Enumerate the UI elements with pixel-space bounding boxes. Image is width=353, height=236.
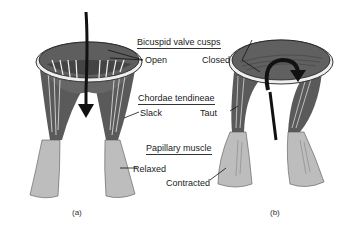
valve-illustration bbox=[0, 0, 353, 236]
panel-b-valve bbox=[218, 40, 333, 187]
chordae-slack-label: Slack bbox=[140, 108, 162, 118]
panel-a-caption: (a) bbox=[72, 208, 82, 218]
papillary-heading: Papillary muscle bbox=[146, 143, 212, 155]
cusps-heading: Bicuspid valve cusps bbox=[137, 37, 221, 49]
panel-a-valve bbox=[30, 12, 142, 198]
chordae-taut-label: Taut bbox=[200, 108, 217, 118]
muscle-relaxed-label: Relaxed bbox=[133, 164, 166, 174]
cusps-closed-label: Closed bbox=[202, 55, 230, 65]
chordae-heading: Chordae tendineae bbox=[138, 93, 215, 105]
down-arrow-icon bbox=[86, 12, 87, 104]
cusps-open-label: Open bbox=[145, 55, 167, 65]
muscle-contracted-label: Contracted bbox=[166, 178, 210, 188]
panel-b-caption: (b) bbox=[270, 208, 280, 218]
